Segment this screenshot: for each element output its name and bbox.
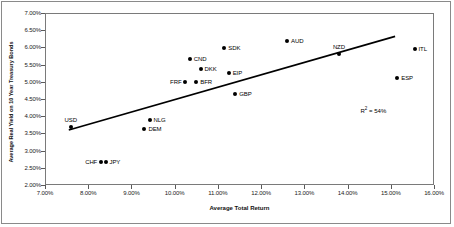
x-tick-mark bbox=[348, 185, 349, 189]
data-point-label: USD bbox=[65, 117, 77, 123]
y-tick-mark bbox=[41, 13, 45, 14]
y-tick-mark bbox=[41, 133, 45, 134]
data-point bbox=[227, 71, 231, 75]
x-tick-label: 11.00% bbox=[208, 190, 227, 196]
x-axis-title: Average Total Return bbox=[45, 205, 434, 211]
x-tick-label: 16.00% bbox=[424, 190, 444, 196]
x-tick-mark bbox=[175, 185, 176, 189]
x-tick-mark bbox=[391, 185, 392, 189]
data-point bbox=[337, 52, 341, 56]
data-point-label: SDK bbox=[228, 45, 240, 51]
x-tick-mark bbox=[218, 185, 219, 189]
trendline bbox=[45, 13, 434, 185]
data-point bbox=[99, 160, 103, 164]
data-point-label: DEM bbox=[148, 126, 161, 132]
x-tick-mark bbox=[261, 185, 262, 189]
x-tick-mark bbox=[131, 185, 132, 189]
x-tick-label: 13.00% bbox=[294, 190, 314, 196]
x-tick-mark bbox=[434, 185, 435, 189]
data-point bbox=[413, 47, 417, 51]
data-point-label: DKK bbox=[205, 66, 217, 72]
y-tick-mark bbox=[41, 99, 45, 100]
x-tick-mark bbox=[304, 185, 305, 189]
chart-figure: 7.00%6.50%6.00%5.50%5.00%4.50%4.00%3.50%… bbox=[0, 0, 454, 227]
x-tick-label: 14.00% bbox=[338, 190, 358, 196]
x-tick-mark bbox=[88, 185, 89, 189]
data-point-label: EIP bbox=[233, 70, 242, 76]
data-point-label: GBP bbox=[239, 91, 251, 97]
x-tick-label: 7.00% bbox=[37, 190, 54, 196]
data-point-label: FRF bbox=[170, 79, 181, 85]
data-point bbox=[199, 67, 203, 71]
r-squared: R2 = 54% bbox=[361, 106, 387, 114]
data-point-label: AUD bbox=[291, 38, 303, 44]
data-layer: USDCHFJPYDEMNLGFRFBFRCNDDKKSDKEIPGBPAUDN… bbox=[45, 13, 434, 185]
data-point bbox=[148, 118, 152, 122]
y-tick-mark bbox=[41, 82, 45, 83]
data-point-label: NLG bbox=[154, 117, 166, 123]
data-point bbox=[233, 92, 237, 96]
data-point-label: ITL bbox=[419, 46, 427, 52]
r-squared-value: = 54% bbox=[367, 108, 386, 114]
y-tick-mark bbox=[41, 47, 45, 48]
data-point-label: CHF bbox=[85, 159, 97, 165]
data-point bbox=[69, 125, 73, 129]
y-axis-title: Average Real Yield on 10 Year Treasury B… bbox=[8, 28, 14, 176]
x-tick-label: 10.00% bbox=[165, 190, 185, 196]
y-tick-mark bbox=[41, 168, 45, 169]
data-point-label: CND bbox=[194, 56, 207, 62]
data-point-label: BFR bbox=[200, 79, 212, 85]
data-point-label: ESP bbox=[401, 75, 413, 81]
y-tick-mark bbox=[41, 116, 45, 117]
data-point bbox=[104, 160, 108, 164]
y-tick-mark bbox=[41, 30, 45, 31]
data-point-label: NZD bbox=[333, 44, 345, 50]
x-tick-label: 8.00% bbox=[80, 190, 97, 196]
x-tick-label: 12.00% bbox=[251, 190, 271, 196]
y-tick-mark bbox=[41, 151, 45, 152]
x-tick-mark bbox=[45, 185, 46, 189]
x-tick-label: 15.00% bbox=[381, 190, 401, 196]
y-tick-mark bbox=[41, 65, 45, 66]
data-point-label: JPY bbox=[110, 159, 121, 165]
x-tick-label: 9.00% bbox=[123, 190, 140, 196]
y-tick-mark bbox=[41, 185, 45, 186]
